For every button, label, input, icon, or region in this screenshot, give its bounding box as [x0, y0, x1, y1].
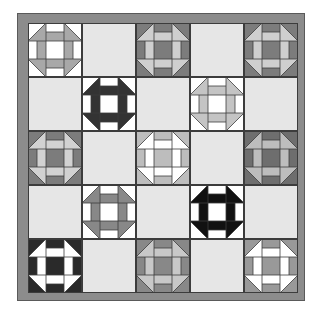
- quilt-grid: [28, 23, 298, 293]
- plain-square: [28, 77, 82, 131]
- churn-dash-block: [190, 77, 244, 131]
- plain-square: [190, 239, 244, 293]
- churn-dash-block: [244, 23, 298, 77]
- plain-square: [190, 23, 244, 77]
- plain-square: [244, 77, 298, 131]
- churn-dash-block: [136, 23, 190, 77]
- plain-square: [136, 77, 190, 131]
- plain-square: [136, 185, 190, 239]
- churn-dash-block: [82, 185, 136, 239]
- churn-dash-block: [28, 239, 82, 293]
- churn-dash-block: [28, 131, 82, 185]
- plain-square: [82, 131, 136, 185]
- churn-dash-block: [190, 185, 244, 239]
- quilt-border: [17, 13, 305, 301]
- churn-dash-block: [28, 23, 82, 77]
- plain-square: [82, 23, 136, 77]
- plain-square: [82, 239, 136, 293]
- plain-square: [28, 185, 82, 239]
- churn-dash-block: [244, 239, 298, 293]
- churn-dash-block: [244, 131, 298, 185]
- churn-dash-block: [136, 131, 190, 185]
- plain-square: [190, 131, 244, 185]
- plain-square: [244, 185, 298, 239]
- churn-dash-block: [136, 239, 190, 293]
- churn-dash-block: [82, 77, 136, 131]
